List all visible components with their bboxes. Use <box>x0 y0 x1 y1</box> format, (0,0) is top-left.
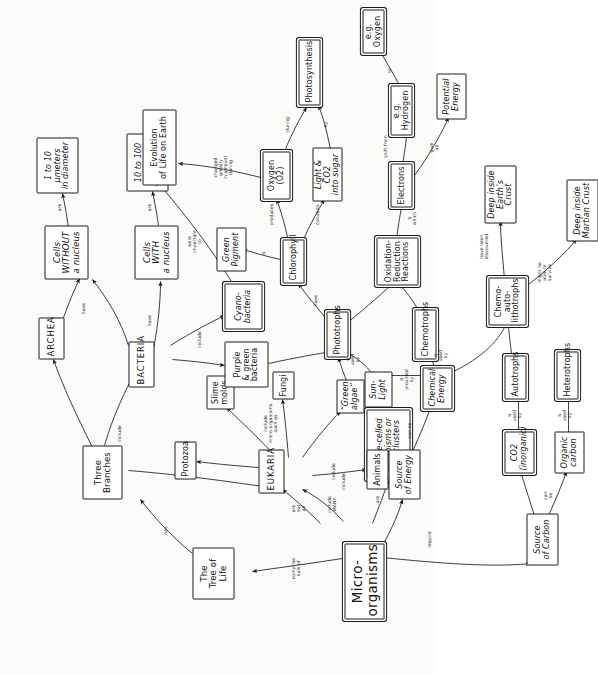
node-eg-oxygen[interactable]: e.g. Oxygen <box>362 9 384 53</box>
node-label: Light & CO2 into sugar <box>314 150 340 198</box>
node-organic-carbon[interactable]: Organic carbon <box>554 431 584 473</box>
node-eukaria[interactable]: EUKARIA <box>258 449 284 493</box>
link-label-include-animals: include <box>340 467 345 495</box>
node-protozoa[interactable]: Protozoa <box>174 441 196 479</box>
node-green-algae[interactable]: “Green algae” <box>336 379 364 413</box>
node-potential-energy[interactable]: Potential Energy <box>436 73 466 119</box>
node-label: Chemotrophs <box>421 312 430 356</box>
node-purple-green-bacteria[interactable]: Purple & green bacteria <box>224 341 268 387</box>
node-label: Potential Energy <box>442 76 459 116</box>
node-label: CO2 (inorganic) <box>510 434 527 470</box>
node-co2-inorganic[interactable]: CO2 (inorganic) <box>504 431 534 473</box>
link-label-to: to <box>386 63 391 77</box>
link-label-include-branches: include <box>116 419 121 447</box>
link-label-converts: converts <box>314 197 319 231</box>
node-label: e.g. Oxygen <box>364 12 381 50</box>
node-animals[interactable]: Animals <box>366 449 388 489</box>
link-label-produces: produces <box>268 197 273 231</box>
node-label: Oxygen (O2) <box>267 154 284 196</box>
node-label: Cells WITHOUT a nucleus <box>52 228 80 276</box>
node-deep-inside-martian-crust[interactable]: Deep inside Martian Crust <box>566 179 598 241</box>
node-label: Green Pigment <box>222 230 239 268</box>
link-label-by: by <box>322 115 327 133</box>
node-label: 1 to 10 µmeters in diameter <box>44 140 70 190</box>
node-label: Deep inside Martian Crust <box>573 182 590 238</box>
link-label-are-not-all: are not all <box>290 497 305 519</box>
node-label: Source of Carbon <box>533 516 550 562</box>
link-label-are-without: are <box>56 197 61 217</box>
node-fungi[interactable]: Fungi <box>272 371 294 399</box>
link-label-changed-greatly: changed greatly in amount during <box>212 145 233 189</box>
link-label-comprise-bulk-of: comprise bulk of <box>290 545 300 591</box>
node-electrons[interactable]: Electrons <box>390 163 412 207</box>
node-label: Deep inside Earth’s Crust <box>487 168 513 220</box>
node-label: Organic carbon <box>560 434 577 470</box>
link-label-have-archea: have <box>80 297 85 319</box>
node-oxidation-reduction-reactions[interactable]: Oxidation- Reduction Reactions <box>376 237 418 285</box>
node-label: Purple & green bacteria <box>233 344 259 384</box>
node-sunlight[interactable]: Sun- Light <box>364 371 392 407</box>
node-label: Sun- Light <box>369 374 386 404</box>
link-label-are-single: are <box>374 489 379 509</box>
node-label: e.g. Hydrogen <box>392 88 409 132</box>
node-source-of-carbon[interactable]: Source of Carbon <box>526 513 558 565</box>
node-cells-with-nucleus[interactable]: Cells WITH a nucleus <box>134 225 178 279</box>
link-label-include-bacteria-group: include <box>196 325 201 353</box>
link-label-include-micro-such-as: include micro-organisms such as <box>262 397 277 449</box>
node-label: EUKARIA <box>266 452 275 490</box>
link-label-is-provided-by: is provided by <box>398 365 413 393</box>
node-bacteria[interactable]: BACTERIA <box>128 341 154 387</box>
node-evolution-of-life[interactable]: Evolution of Life on Earth <box>142 109 176 185</box>
link-label-in-which: is which <box>406 207 416 229</box>
node-label: “Green algae” <box>341 382 358 410</box>
link-label-is-used-by-sunlight: is used by <box>344 349 359 369</box>
node-deep-inside-earths-crust[interactable]: Deep inside Earth’s Crust <box>484 165 516 223</box>
node-label: Electrons <box>397 166 406 204</box>
node-label: The Tree of Life <box>199 550 227 596</box>
node-label: Cells WITH a nucleus <box>142 228 170 276</box>
node-light-co2-into-sugar[interactable]: Light & CO2 into sugar <box>312 147 342 201</box>
node-autotrophs[interactable]: Autotrophs <box>504 355 526 399</box>
link-label-require: require <box>426 525 431 553</box>
node-chemical-energy[interactable]: Chemical Energy <box>422 367 452 409</box>
node-green-pigment[interactable]: Green Pigment <box>216 227 246 271</box>
node-eg-hydrogen[interactable]: e.g. Hydrogen <box>390 85 412 135</box>
link-label-is-used-by-chemical: is used by <box>432 345 447 365</box>
link-label-is-green-pigment: is <box>260 245 265 261</box>
node-source-of-energy[interactable]: Source of Energy <box>388 449 420 499</box>
node-micro-organisms[interactable]: Micro-organisms <box>344 543 384 619</box>
link-label-has: has <box>162 519 167 541</box>
node-label: BACTERIA <box>136 344 145 384</box>
node-label: Protozoa <box>181 444 190 476</box>
link-label-shift-from: shift from <box>382 129 387 163</box>
node-label: Fungi <box>279 374 288 396</box>
node-archea[interactable]: ARCHEA <box>38 317 64 359</box>
node-oxygen[interactable]: Oxygen (O2) <box>262 151 290 199</box>
node-chlorophyll[interactable]: Chlorophyll <box>282 239 304 283</box>
node-cells-without-nucleus[interactable]: Cells WITHOUT a nucleus <box>44 225 88 279</box>
node-chemo-auto-lithotrophs[interactable]: Chemo-auto- lithotrophs <box>488 277 526 325</box>
node-label: Photosynthesis <box>305 42 314 102</box>
node-label: Phototrophs <box>333 314 342 354</box>
node-label: ARCHEA <box>46 320 55 356</box>
link-label-have-bacteria: have <box>146 309 151 331</box>
node-label: Chemo-auto- lithotrophs <box>494 280 520 322</box>
node-size-1-to-10[interactable]: 1 to 10 µmeters in diameter <box>36 137 78 193</box>
node-label: Source of Energy <box>395 452 412 496</box>
link-label-is-used-by-co2: is used by <box>506 405 521 425</box>
node-label: Heterotrophs <box>563 354 572 396</box>
node-label: Micro-organisms <box>349 546 378 616</box>
node-three-branches[interactable]: Three Branches <box>82 445 122 499</box>
node-heterotrophs[interactable]: Heterotrophs <box>556 351 578 399</box>
link-label-were-important-to: were important to <box>186 221 201 261</box>
node-photosynthesis[interactable]: Photosynthesis <box>298 39 320 105</box>
link-label-have-chlorophyll: have <box>312 289 317 311</box>
node-label: Autotrophs <box>511 358 520 396</box>
link-label-give-up: give up <box>428 137 438 157</box>
node-tree-of-life[interactable]: The Tree of Life <box>192 547 234 599</box>
node-cyanobacteria[interactable]: Cyano- bacteria <box>224 283 262 329</box>
link-label-during: during <box>284 111 289 137</box>
link-label-have-been-discovered: have been discovered <box>478 225 488 267</box>
